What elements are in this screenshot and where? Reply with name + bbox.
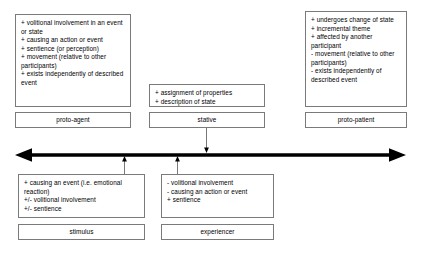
- feature-item: + volitional involvement in an event or …: [21, 19, 126, 36]
- connector-arrow-up-icon: [173, 156, 182, 176]
- arrowhead-right-icon: [389, 148, 406, 162]
- node-label-text: proto-patient: [338, 116, 375, 124]
- connector-experiencer-to-axis: [173, 156, 182, 176]
- feature-box-proto-patient: + undergoes change of state + incrementa…: [305, 11, 407, 107]
- feature-item: + causing an action or event: [21, 36, 126, 45]
- arrowhead-left-icon: [15, 148, 32, 162]
- feature-item: + sentience (or perception): [21, 45, 126, 54]
- feature-item: + sentience: [167, 196, 269, 205]
- feature-box-stative: + assignment of properties + description…: [149, 84, 265, 107]
- feature-item: +/- volitional involvement: [24, 196, 140, 205]
- node-label-proto-patient: proto-patient: [305, 112, 407, 128]
- feature-item: + description of state: [155, 98, 260, 107]
- feature-item: + assignment of properties: [155, 89, 260, 98]
- node-label-proto-agent: proto-agent: [15, 112, 131, 128]
- feature-list-stimulus: + causing an event (i.e. emotional react…: [24, 179, 140, 213]
- feature-item: - causing an action or event: [167, 188, 269, 197]
- feature-list-experiencer: - volitional involvement - causing an ac…: [167, 179, 269, 205]
- feature-list-proto-patient: + undergoes change of state + incrementa…: [311, 16, 402, 84]
- node-label-experiencer: experiencer: [161, 224, 274, 240]
- feature-box-experiencer: - volitional involvement - causing an ac…: [161, 174, 274, 218]
- proto-role-diagram: + volitional involvement in an event or …: [0, 0, 421, 256]
- feature-box-proto-agent: + volitional involvement in an event or …: [15, 14, 131, 107]
- connector-stimulus-to-axis: [120, 156, 129, 176]
- feature-item: + affected by another participant: [311, 33, 402, 50]
- feature-list-proto-agent: + volitional involvement in an event or …: [21, 19, 126, 87]
- feature-item: + undergoes change of state: [311, 16, 402, 25]
- feature-list-stative: + assignment of properties + description…: [155, 89, 260, 106]
- node-label-stimulus: stimulus: [18, 224, 145, 240]
- double-headed-arrow-icon: [15, 147, 406, 163]
- feature-item: - movement (relative to other participan…: [311, 50, 402, 67]
- feature-item: + incremental theme: [311, 25, 402, 34]
- feature-item: + causing an event (i.e. emotional react…: [24, 179, 140, 196]
- continuum-axis: [15, 147, 406, 163]
- node-label-stative: stative: [149, 112, 265, 128]
- connector-arrow-up-icon: [120, 156, 129, 176]
- feature-item: - exists independently of described even…: [311, 67, 402, 84]
- feature-item: - volitional involvement: [167, 179, 269, 188]
- node-label-text: experiencer: [200, 228, 234, 236]
- feature-item: +/- sentience: [24, 205, 140, 214]
- node-label-text: stimulus: [70, 228, 94, 236]
- feature-item: + movement (relative to other participan…: [21, 53, 126, 70]
- node-label-text: proto-agent: [56, 116, 89, 124]
- feature-item: + exists independently of described even…: [21, 70, 126, 87]
- feature-box-stimulus: + causing an event (i.e. emotional react…: [18, 174, 145, 218]
- node-label-text: stative: [198, 116, 217, 124]
